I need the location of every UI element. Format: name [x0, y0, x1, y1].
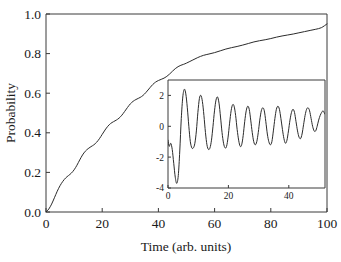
- inset-background: [168, 80, 325, 188]
- main-xtick-label-3: 60: [208, 216, 222, 231]
- inset-axes: [168, 80, 325, 188]
- main-ytick-label-3: 0.6: [24, 86, 41, 101]
- main-ytick-label-4: 0.8: [24, 46, 41, 61]
- main-ytick-label-5: 1.0: [24, 7, 41, 22]
- inset-xtick-label-1: 20: [224, 191, 234, 201]
- main-xtick-label-5: 100: [317, 216, 338, 231]
- x-axis-title: Time (arb. units): [141, 239, 232, 254]
- main-ytick-label-0: 0.0: [24, 205, 41, 220]
- inset-ytick-label-3: -4: [156, 183, 164, 193]
- main-xtick-label-2: 40: [152, 216, 166, 231]
- inset-ytick-label-1: 0: [159, 122, 164, 132]
- inset-ytick-label-2: -2: [156, 153, 164, 163]
- y-axis-title: Probability: [3, 83, 18, 143]
- chart-svg: 0.0 0.2 0.4 0.6 0.8 1.0 0 20 40 60 80 10…: [0, 0, 341, 262]
- inset-xtick-label-2: 40: [284, 191, 294, 201]
- main-xtick-label-0: 0: [43, 216, 50, 231]
- main-xtick-label-1: 20: [95, 216, 109, 231]
- figure-container: 0.0 0.2 0.4 0.6 0.8 1.0 0 20 40 60 80 10…: [0, 0, 341, 262]
- inset-ytick-label-0: 2: [159, 91, 164, 101]
- main-xtick-label-4: 80: [264, 216, 278, 231]
- main-ytick-label-2: 0.4: [24, 125, 41, 140]
- inset-xtick-label-0: 0: [166, 191, 171, 201]
- main-ytick-label-1: 0.2: [24, 165, 41, 180]
